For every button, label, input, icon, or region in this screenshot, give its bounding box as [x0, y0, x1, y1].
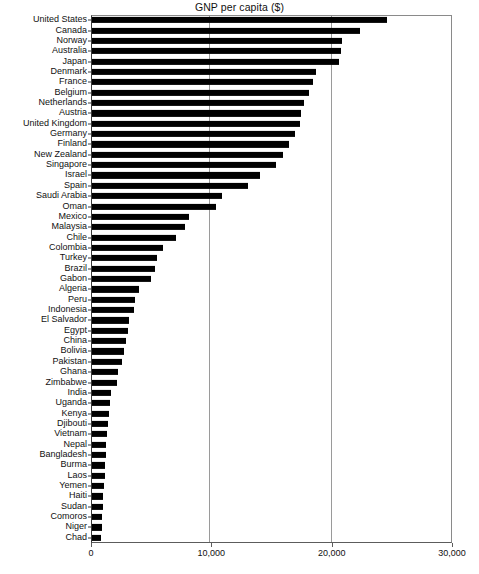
- y-tick-mark: [88, 382, 91, 383]
- category-label: Algeria: [59, 285, 87, 295]
- category-label: Australia: [52, 46, 87, 56]
- bar: [92, 348, 124, 354]
- y-tick-mark: [88, 30, 91, 31]
- category-label: United Kingdom: [23, 119, 87, 129]
- bar-row: France: [0, 77, 479, 87]
- category-label: Spain: [64, 181, 87, 191]
- category-label: Finland: [57, 140, 87, 150]
- bar-row: Gabon: [0, 274, 479, 284]
- category-label: Chile: [66, 233, 87, 243]
- y-tick-mark: [88, 496, 91, 497]
- y-tick-mark: [88, 351, 91, 352]
- y-tick-mark: [88, 258, 91, 259]
- bar-row: Netherlands: [0, 98, 479, 108]
- y-tick-mark: [88, 247, 91, 248]
- category-label: Peru: [68, 295, 87, 305]
- bar: [92, 307, 134, 313]
- bar-row: Canada: [0, 25, 479, 35]
- bar: [92, 421, 108, 427]
- bar: [92, 183, 248, 189]
- category-label: Laos: [67, 471, 87, 481]
- y-tick-mark: [88, 320, 91, 321]
- bar: [92, 493, 103, 499]
- bar: [92, 234, 176, 240]
- category-label: Pakistan: [52, 357, 87, 367]
- y-tick-mark: [88, 123, 91, 124]
- bar: [92, 483, 104, 489]
- x-tick-mark: [91, 543, 92, 547]
- bar: [92, 131, 295, 137]
- bar: [92, 473, 105, 479]
- y-tick-mark: [88, 475, 91, 476]
- category-label: El Salvador: [41, 316, 87, 326]
- bar: [92, 390, 111, 396]
- y-tick-mark: [88, 82, 91, 83]
- y-tick-mark: [88, 403, 91, 404]
- y-tick-mark: [88, 216, 91, 217]
- bar: [92, 255, 157, 261]
- y-tick-mark: [88, 61, 91, 62]
- category-label: Vietnam: [54, 430, 87, 440]
- y-tick-mark: [88, 527, 91, 528]
- y-tick-mark: [88, 454, 91, 455]
- bar: [92, 121, 300, 127]
- y-tick-mark: [88, 330, 91, 331]
- bar-row: Bangladesh: [0, 450, 479, 460]
- bar: [92, 100, 304, 106]
- category-label: Canada: [55, 26, 87, 36]
- y-tick-mark: [88, 134, 91, 135]
- category-label: Gabon: [60, 274, 87, 284]
- bar-row: Oman: [0, 201, 479, 211]
- y-tick-mark: [88, 102, 91, 103]
- bar: [92, 276, 151, 282]
- bar: [92, 110, 301, 116]
- bar: [92, 172, 260, 178]
- bar: [92, 79, 313, 85]
- bar-row: Pakistan: [0, 357, 479, 367]
- category-label: Burma: [60, 461, 87, 471]
- y-tick-mark: [88, 465, 91, 466]
- category-label: Colombia: [49, 243, 87, 253]
- bar: [92, 442, 106, 448]
- category-label: Indonesia: [48, 305, 87, 315]
- bar: [92, 514, 102, 520]
- x-tick-mark: [452, 543, 453, 547]
- category-label: Sudan: [61, 502, 87, 512]
- category-label: Austria: [59, 109, 87, 119]
- category-label: Belgium: [54, 88, 87, 98]
- bar: [92, 359, 122, 365]
- y-tick-mark: [88, 537, 91, 538]
- category-label: Israel: [65, 171, 87, 181]
- bar-row: Vietnam: [0, 429, 479, 439]
- y-tick-mark: [88, 92, 91, 93]
- bar-row: Yemen: [0, 481, 479, 491]
- y-tick-mark: [88, 113, 91, 114]
- y-tick-mark: [88, 361, 91, 362]
- bar-row: Chad: [0, 533, 479, 543]
- bar-row: Djibouti: [0, 419, 479, 429]
- bar: [92, 17, 387, 23]
- x-tick-label: 30,000: [438, 548, 466, 559]
- bar-row: Germany: [0, 129, 479, 139]
- bar: [92, 38, 342, 44]
- bar: [92, 369, 118, 375]
- category-label: Zimbabwe: [45, 378, 87, 388]
- category-label: United States: [33, 15, 87, 25]
- category-label: Saudi Arabia: [36, 191, 87, 201]
- x-tick-label: 0: [88, 548, 93, 559]
- bar: [92, 524, 102, 530]
- bar: [92, 90, 309, 96]
- bar-row: Turkey: [0, 253, 479, 263]
- bar: [92, 328, 128, 334]
- y-tick-mark: [88, 372, 91, 373]
- y-tick-mark: [88, 165, 91, 166]
- category-label: Uganda: [55, 398, 87, 408]
- bar-row: Israel: [0, 170, 479, 180]
- category-label: Chad: [65, 533, 87, 543]
- bar-row: Egypt: [0, 326, 479, 336]
- category-label: Netherlands: [38, 98, 87, 108]
- bar: [92, 462, 105, 468]
- bar: [92, 535, 101, 541]
- bar-row: Malaysia: [0, 222, 479, 232]
- category-label: New Zealand: [34, 150, 87, 160]
